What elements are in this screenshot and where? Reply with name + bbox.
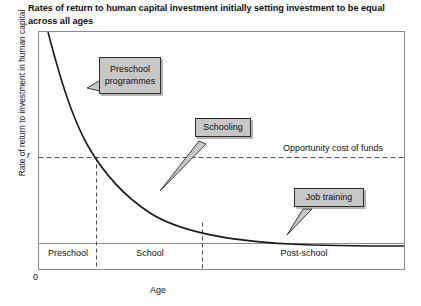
chart-title: Rates of return to human capital investm… [28, 2, 414, 27]
region-label-school: School [123, 248, 177, 258]
region-label-preschool: Preschool [41, 248, 95, 258]
callout-preschool-programmes[interactable]: Preschool programmes [99, 57, 161, 94]
y-axis-label: Rate of return to investment in human ca… [17, 0, 27, 199]
x-axis-label: Age [150, 285, 166, 295]
chart-figure: Rates of return to human capital investm… [0, 0, 421, 306]
y-axis-tick-r: r [27, 150, 30, 160]
callout-schooling[interactable]: Schooling [195, 118, 251, 137]
opportunity-cost-label: Opportunity cost of funds [283, 143, 383, 153]
region-label-post-school: Post-school [268, 248, 340, 258]
axis-origin-label: 0 [33, 272, 38, 282]
callout-job-training[interactable]: Job training [294, 188, 364, 207]
